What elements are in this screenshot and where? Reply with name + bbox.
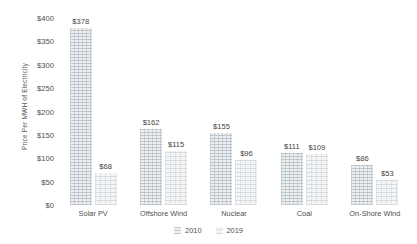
y-axis-tick: $350 [37, 37, 54, 46]
y-axis-tick: $200 [37, 107, 54, 116]
bar-2019[interactable] [95, 173, 117, 205]
chart-legend: 20102019 [0, 226, 417, 235]
y-axis-tick: $150 [37, 130, 54, 139]
bar-value-label: $162 [143, 118, 160, 127]
y-axis-tick: $250 [37, 84, 54, 93]
x-axis-category-label: Nuclear [199, 209, 269, 218]
bar-value-label: $115 [168, 140, 184, 149]
legend-label: 2010 [185, 226, 201, 235]
bar-2019[interactable] [165, 151, 187, 205]
bar-group: $162$115Offshore Wind [128, 18, 198, 205]
legend-item-2019[interactable]: 2019 [216, 226, 243, 235]
x-axis-category-label: On-Shore Wind [340, 209, 410, 218]
bar-group-bars: $378$68 [58, 18, 128, 205]
legend-swatch-icon [174, 227, 181, 234]
bar-2019[interactable] [235, 160, 257, 205]
bar-value-label: $53 [381, 169, 394, 178]
bar-value-label: $86 [356, 154, 369, 163]
bar-value-label: $111 [284, 142, 300, 151]
bar-2019[interactable] [376, 180, 398, 205]
bar-group: $86$53On-Shore Wind [340, 18, 410, 205]
y-axis-tick: $100 [37, 154, 54, 163]
bar-value-label: $68 [99, 162, 112, 171]
legend-item-2010[interactable]: 2010 [174, 226, 201, 235]
bar-value-label: $109 [308, 143, 325, 152]
y-axis-tick: $300 [37, 60, 54, 69]
y-axis-tick: $50 [41, 177, 54, 186]
bar-value-label: $96 [240, 149, 253, 158]
bar-value-label: $155 [213, 122, 230, 131]
bar-group-bars: $86$53 [340, 18, 410, 205]
bar-group-bars: $162$115 [128, 18, 198, 205]
y-axis-tick-labels: $400$350$300$250$200$150$100$50$0 [14, 0, 54, 244]
legend-swatch-icon [216, 227, 223, 234]
bar-2010[interactable] [70, 28, 92, 205]
y-axis-tick: $400 [37, 14, 54, 23]
bar-2010[interactable] [351, 165, 373, 205]
bar-group: $155$96Nuclear [199, 18, 269, 205]
x-axis-category-label: Coal [269, 209, 339, 218]
legend-label: 2019 [227, 226, 243, 235]
bar-group: $111$109Coal [269, 18, 339, 205]
bar-group-bars: $155$96 [199, 18, 269, 205]
plot-area: $378$68Solar PV$162$115Offshore Wind$155… [58, 18, 410, 205]
x-axis-category-label: Offshore Wind [128, 209, 198, 218]
bar-chart: Price Per MWH of Electricity $400$350$30… [0, 0, 417, 244]
bar-2010[interactable] [281, 153, 303, 205]
bar-group: $378$68Solar PV [58, 18, 128, 205]
bar-2010[interactable] [140, 129, 162, 205]
bar-group-bars: $111$109 [269, 18, 339, 205]
bar-2010[interactable] [210, 133, 232, 205]
bar-2019[interactable] [306, 154, 328, 205]
bar-value-label: $378 [72, 17, 89, 26]
x-axis-category-label: Solar PV [58, 209, 128, 218]
y-axis-tick: $0 [46, 201, 54, 210]
